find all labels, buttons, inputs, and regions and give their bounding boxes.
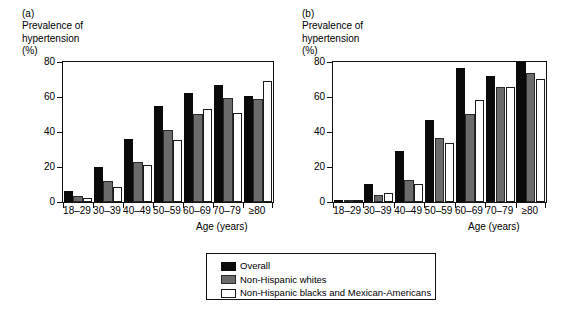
x-tick-label: 70–79 [212,205,242,216]
panel-a-bars [63,62,273,202]
bar-overall [64,191,73,202]
bar-group [516,62,545,202]
bar-whites [496,87,505,203]
panel-a-x-axis-title: Age (years) [196,221,248,232]
bar-overall [486,76,495,202]
bar-group [214,62,243,202]
legend-label-overall: Overall [240,261,270,271]
bar-overall [364,184,373,202]
y-tick-60 [327,97,333,98]
y-tick-60 [57,97,63,98]
bar-blacks [113,187,122,202]
bar-overall [425,120,434,202]
y-tick-20 [327,167,333,168]
bar-blacks [353,200,362,202]
bar-whites [73,196,82,202]
bar-whites [526,73,535,202]
x-tick-label: 50–59 [152,205,182,216]
legend-item: Overall [221,260,435,272]
y-tick-label-80: 80 [27,57,55,67]
bar-blacks [384,193,393,202]
bar-overall [395,151,404,202]
x-tick-label: 40–49 [393,205,423,216]
bar-overall [94,167,103,202]
bar-group [64,62,93,202]
panel-a: (a) Prevalence of hypertension (%) 02040… [0,0,283,240]
y-tick-label-80: 80 [297,57,325,67]
panel-a-y-axis-title: Prevalence of hypertension (%) [22,20,83,58]
bar-blacks [233,113,242,202]
y-tick-20 [57,167,63,168]
bar-blacks [173,140,182,202]
panel-b-letter: (b) [302,8,314,19]
y-tick-label-20: 20 [297,162,325,172]
panel-b-x-axis-title: Age (years) [468,221,520,232]
bar-whites [374,195,383,202]
bar-blacks [475,100,484,202]
legend-item: Non-Hispanic blacks and Mexican-American… [221,287,435,299]
bar-whites [193,114,202,202]
legend-swatch-blacks [221,289,236,298]
bar-group [124,62,153,202]
bar-whites [103,181,112,202]
bar-overall [244,96,253,202]
bar-whites [223,98,232,202]
panel-b: (b) Prevalence of hypertension (%) 02040… [280,0,563,240]
y-tick-80 [57,62,63,63]
x-tick-label: 40–49 [122,205,152,216]
bar-blacks [414,184,423,202]
y-tick-label-0: 0 [297,197,325,207]
bar-overall [154,106,163,202]
bar-overall [214,85,223,202]
x-tick-label: 70–79 [484,205,514,216]
x-tick-label: 18–29 [62,205,92,216]
x-tick-label: 50–59 [423,205,453,216]
bar-whites [404,180,413,202]
legend-swatch-whites [221,275,236,284]
bar-group [94,62,123,202]
y-tick-label-20: 20 [27,162,55,172]
bar-blacks [506,87,515,203]
bar-blacks [536,79,545,202]
bar-whites [435,138,444,202]
panel-b-y-axis-title: Prevalence of hypertension (%) [302,20,363,58]
y-tick-label-60: 60 [297,92,325,102]
bar-whites [253,99,262,202]
legend-item: Non-Hispanic whites [221,274,435,286]
y-tick-label-0: 0 [27,197,55,207]
x-tick-label: 30–39 [362,205,392,216]
x-tick-label: 60–69 [182,205,212,216]
bar-group [486,62,515,202]
bar-overall [516,62,525,202]
panel-b-bars [333,62,546,202]
bar-group [364,62,393,202]
panel-a-plot-area: 020406080 [62,61,274,203]
bar-overall [456,68,465,202]
panel-b-plot-area: 020406080 [332,61,547,203]
bar-whites [344,200,353,202]
bar-whites [465,114,474,202]
bar-group [244,62,273,202]
x-tick-label: 60–69 [454,205,484,216]
figure-container: (a) Prevalence of hypertension (%) 02040… [0,0,566,321]
bar-blacks [263,81,272,202]
bar-group [334,62,363,202]
bar-overall [184,93,193,202]
bar-group [184,62,213,202]
legend: Overall Non-Hispanic whites Non-Hispanic… [206,253,436,300]
y-tick-label-40: 40 [27,127,55,137]
y-tick-40 [327,132,333,133]
bar-blacks [83,198,92,202]
y-tick-label-60: 60 [27,92,55,102]
y-tick-80 [327,62,333,63]
bar-blacks [203,109,212,202]
legend-label-whites: Non-Hispanic whites [240,275,327,285]
bar-whites [133,162,142,202]
bar-group [395,62,424,202]
panel-a-letter: (a) [22,8,34,19]
bar-overall [334,200,343,202]
bar-whites [163,130,172,202]
x-tick-label: 18–29 [332,205,362,216]
x-tick-label: ≥80 [242,205,272,216]
x-tick-label: ≥80 [515,205,545,216]
